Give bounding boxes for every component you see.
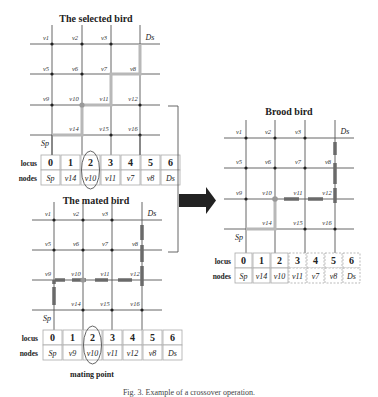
svg-text:6: 6 [168,157,173,168]
svg-text:4: 4 [313,255,318,266]
svg-text:v12: v12 [128,95,138,102]
svg-text:v11: v11 [100,95,109,102]
svg-text:Sp: Sp [235,233,243,242]
svg-text:v2: v2 [265,128,272,135]
svg-text:v6: v6 [73,240,80,247]
svg-text:v8: v8 [130,65,137,72]
svg-text:v11: v11 [105,174,116,183]
svg-text:locus: locus [22,334,38,343]
svg-text:v14: v14 [69,125,79,132]
svg-text:Ds: Ds [340,127,350,136]
brood-bird-chromosome-table: locus nodes 0 1 2 3 4 5 6 Sp v14 v10 [213,253,360,283]
svg-text:v9: v9 [69,349,77,358]
selected-bird-labels: v1 v2 v3 Ds v5 v6 v7 v8 v9 v10 v11 v12 v… [41,33,154,148]
svg-text:v7: v7 [102,240,109,247]
svg-text:4: 4 [130,332,135,343]
svg-text:v10: v10 [85,174,97,183]
svg-text:1: 1 [70,332,75,343]
svg-text:v8: v8 [147,174,155,183]
crossover-diagram: The selected bird v1 v2 v3 Ds [0,0,378,397]
svg-text:v15: v15 [99,125,109,132]
svg-text:Sp: Sp [41,139,49,148]
svg-text:v5: v5 [45,240,52,247]
svg-text:v9: v9 [45,270,52,277]
svg-text:v2: v2 [73,210,80,217]
mated-bird-panel: The mated bird [20,195,182,379]
svg-text:3: 3 [295,255,300,266]
svg-text:4: 4 [128,157,133,168]
brood-bird-grid [224,120,354,253]
svg-text:v11: v11 [294,189,303,196]
svg-text:v12: v12 [130,270,140,277]
svg-text:Sp: Sp [49,349,57,358]
svg-text:6: 6 [349,255,354,266]
svg-text:v3: v3 [102,210,109,217]
svg-text:v12: v12 [127,349,139,358]
svg-text:v1: v1 [43,34,49,41]
svg-text:3: 3 [110,332,115,343]
svg-text:nodes: nodes [19,174,37,183]
svg-text:v2: v2 [72,34,79,41]
selected-bird-title: The selected bird [59,13,133,24]
svg-text:v10: v10 [87,349,99,358]
svg-text:0: 0 [50,332,55,343]
svg-text:Ds: Ds [167,349,177,358]
svg-text:v11: v11 [292,272,303,281]
brood-bird-node-dots [244,136,336,230]
mated-bird-path [54,225,142,305]
svg-text:nodes: nodes [213,272,231,281]
svg-text:v8: v8 [330,272,338,281]
svg-text:v14: v14 [262,219,272,226]
mated-bird-labels: v1 v2 v3 Ds v5 v6 v7 v8 v9 v10 v11 v12 v… [43,209,156,323]
svg-text:v6: v6 [265,158,272,165]
svg-text:v3: v3 [295,128,302,135]
svg-text:v10: v10 [262,189,272,196]
svg-text:v16: v16 [130,300,140,307]
svg-text:locus: locus [215,257,231,266]
svg-text:v12: v12 [322,189,332,196]
svg-text:v8: v8 [149,349,157,358]
svg-text:5: 5 [148,157,153,168]
svg-text:Ds: Ds [165,174,175,183]
svg-text:v9: v9 [43,95,50,102]
svg-text:v11: v11 [101,270,110,277]
svg-text:v1: v1 [45,210,51,217]
svg-text:Sp: Sp [43,314,51,323]
svg-text:2: 2 [277,255,282,266]
svg-text:Ds: Ds [147,209,157,218]
svg-text:v10: v10 [274,272,286,281]
svg-text:1: 1 [259,255,264,266]
mated-bird-node-dots [52,218,143,311]
svg-text:Ds: Ds [145,33,155,42]
svg-text:v7: v7 [295,158,302,165]
svg-text:2: 2 [90,332,95,343]
svg-text:nodes: nodes [20,349,38,358]
svg-text:v11: v11 [107,349,118,358]
svg-text:5: 5 [150,332,155,343]
crossover-arrow-icon [179,187,216,214]
svg-text:locus: locus [21,159,37,168]
svg-text:Sp: Sp [47,174,55,183]
brood-bird-labels: v1 v2 v3 Ds v5 v6 v7 v8 v9 v10 v11 v12 v… [235,127,349,242]
svg-text:v5: v5 [236,158,243,165]
svg-text:v10: v10 [71,270,81,277]
svg-text:v10: v10 [69,95,79,102]
svg-text:v6: v6 [72,65,79,72]
svg-text:v8: v8 [132,240,139,247]
brood-bird-title: Brood bird [265,106,313,117]
figure-caption: Fig. 3. Example of a crossover operation… [123,388,255,397]
svg-text:Sp: Sp [240,272,248,281]
mating-point-label: mating point [70,370,114,379]
brood-bird-panel: Brood bird v1 v2 [213,106,360,283]
svg-text:v9: v9 [236,189,243,196]
svg-text:v7: v7 [312,272,321,281]
svg-text:3: 3 [108,157,113,168]
svg-text:0: 0 [48,157,53,168]
svg-text:v5: v5 [43,65,50,72]
svg-text:Ds: Ds [346,272,356,281]
svg-text:v14: v14 [65,174,77,183]
selected-bird-path [52,44,140,135]
svg-text:v14: v14 [71,300,81,307]
svg-text:v1: v1 [236,128,242,135]
selected-bird-panel: The selected bird v1 v2 v3 Ds [19,13,180,189]
